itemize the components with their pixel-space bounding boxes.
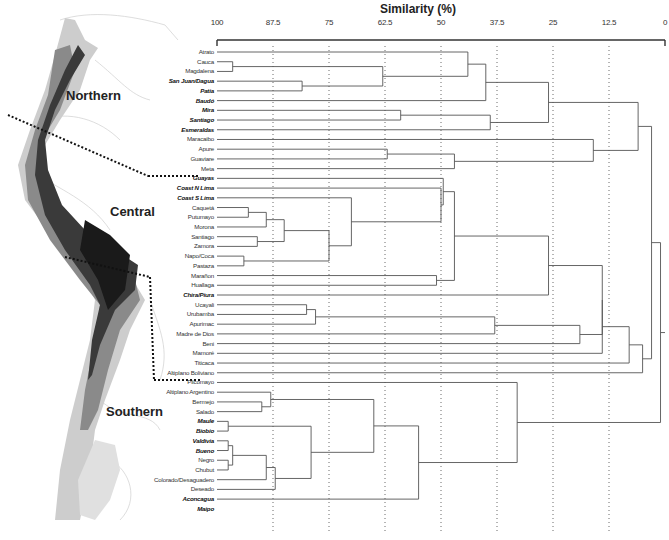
leaf-label: Putumayo [188,213,214,221]
leaf-label: Huallaga [191,281,214,289]
leaf-label: Cauca [197,58,214,66]
axis-tick-label: 50 [437,18,445,27]
leaf-label: Meta [201,165,214,173]
leaf-label: Marañon [191,272,214,280]
leaf-label: Maracaibo [187,135,214,143]
leaf-label: Ucayali [195,301,214,309]
axis-tick-label: 25 [549,18,557,27]
leaf-label: Coast N Lima [177,184,214,192]
leaf-label: Bermejo [192,398,214,406]
leaf-label: Guaviare [190,155,214,163]
leaf-label: Bueno [196,447,214,455]
axis-tick-label: 75 [325,18,333,27]
leaf-label: Chira/Piura [183,291,214,299]
leaf-label: Atrato [199,48,214,56]
leaf-label: Altiplano Argentino [166,388,214,396]
leaf-label: Morona [194,223,214,231]
leaf-label: Caquetá [192,204,214,212]
leaf-label: Santiago [189,116,214,124]
leaf-label: Guayas [193,174,214,182]
leaf-label: Urubamba [187,310,214,318]
leaf-label: Mamoré [193,349,215,357]
leaf-label: Santiago [191,233,214,241]
axis-tick-label: 0 [663,18,667,27]
leaf-label: San Juan/Dagua [169,77,214,85]
leaf-label: Deseado [191,485,214,493]
leaf-label: Beni [202,340,214,348]
dendrogram [0,0,669,540]
leaf-label: Apurimac [189,320,214,328]
leaf-label: Pastaza [193,262,214,270]
leaf-label: Chubut [195,466,214,474]
leaf-label: Valdivia [192,437,214,445]
axis-title: Similarity (%) [380,2,456,16]
leaf-label: Mira [202,106,214,114]
leaf-label: Esmeraldas [181,126,214,134]
leaf-label: Altiplano Boliviano [167,369,214,377]
leaf-label: Maipo [197,505,214,513]
leaf-label: Coast S Lima [177,194,214,202]
leaf-label: Salado [196,408,214,416]
axis-tick-label: 12.5 [602,18,616,27]
leaf-label: Apure [198,145,214,153]
axis-tick-label: 37.5 [490,18,504,27]
axis-tick-label: 100 [211,18,223,27]
leaf-label: Negro [198,456,214,464]
leaf-label: Magdalena [185,67,214,75]
leaf-label: Biobio [196,427,214,435]
leaf-label: Maule [197,417,214,425]
leaf-label: Aconcagua [182,495,214,503]
leaf-label: Zamora [194,242,214,250]
leaf-label: Napo/Coca [185,252,214,260]
axis-tick-label: 62.5 [378,18,392,27]
leaf-label: Titicaca [195,359,215,367]
leaf-label: Patia [200,87,214,95]
leaf-label: Madre de Dios [176,330,214,338]
leaf-label: Colorado/Desaguadero [154,476,214,484]
axis-tick-label: 87.5 [266,18,280,27]
leaf-label: Pilcomayo [187,378,214,386]
leaf-label: Baudó [196,97,214,105]
